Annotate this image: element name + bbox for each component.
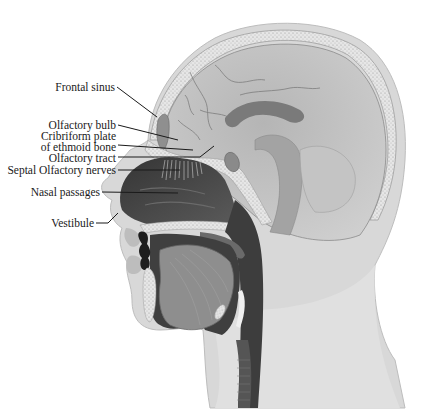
label-olfactory-tract: Olfactory tract [49, 153, 116, 164]
label-vestibule: Vestibule [51, 218, 94, 229]
label-frontal-sinus: Frontal sinus [55, 82, 115, 93]
head-sagittal-illustration [0, 0, 425, 419]
anatomy-figure: Frontal sinus Olfactory bulb Cribriform … [0, 0, 425, 419]
mandible [143, 268, 156, 322]
leader-frontal-sinus [117, 87, 157, 117]
tongue [159, 245, 233, 330]
label-nasal-passages: Nasal passages [31, 187, 100, 198]
label-septal-olfactory-nerves: Septal Olfactory nerves [7, 165, 116, 176]
